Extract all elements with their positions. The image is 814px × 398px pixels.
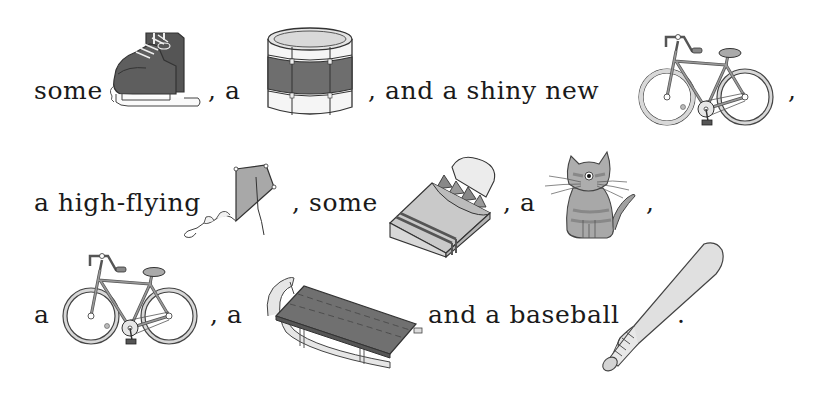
kite-icon bbox=[180, 165, 280, 243]
text-comma-some: , some bbox=[292, 190, 378, 215]
crayons-icon bbox=[386, 153, 498, 257]
text-and-a-shiny-new: , and a shiny new bbox=[368, 78, 599, 103]
text-comma: , bbox=[788, 78, 797, 103]
drum-icon bbox=[264, 25, 356, 117]
baseball-bat-icon bbox=[598, 240, 726, 376]
bicycle-icon bbox=[60, 252, 200, 350]
text-period: . bbox=[677, 302, 686, 327]
text-a-high-flying: a high-flying bbox=[34, 190, 201, 215]
text-comma-a: , a bbox=[503, 190, 536, 215]
text-comma-a: , a bbox=[210, 302, 243, 327]
ice-skates-icon bbox=[106, 30, 204, 112]
cat-icon bbox=[543, 150, 641, 240]
bicycle-icon bbox=[636, 33, 776, 131]
text-comma: , bbox=[646, 190, 655, 215]
text-a: a bbox=[34, 302, 50, 327]
sled-icon bbox=[260, 272, 422, 370]
text-and-a-baseball: and a baseball bbox=[428, 302, 620, 327]
text-comma-a: , a bbox=[208, 78, 241, 103]
text-some: some bbox=[34, 78, 103, 103]
